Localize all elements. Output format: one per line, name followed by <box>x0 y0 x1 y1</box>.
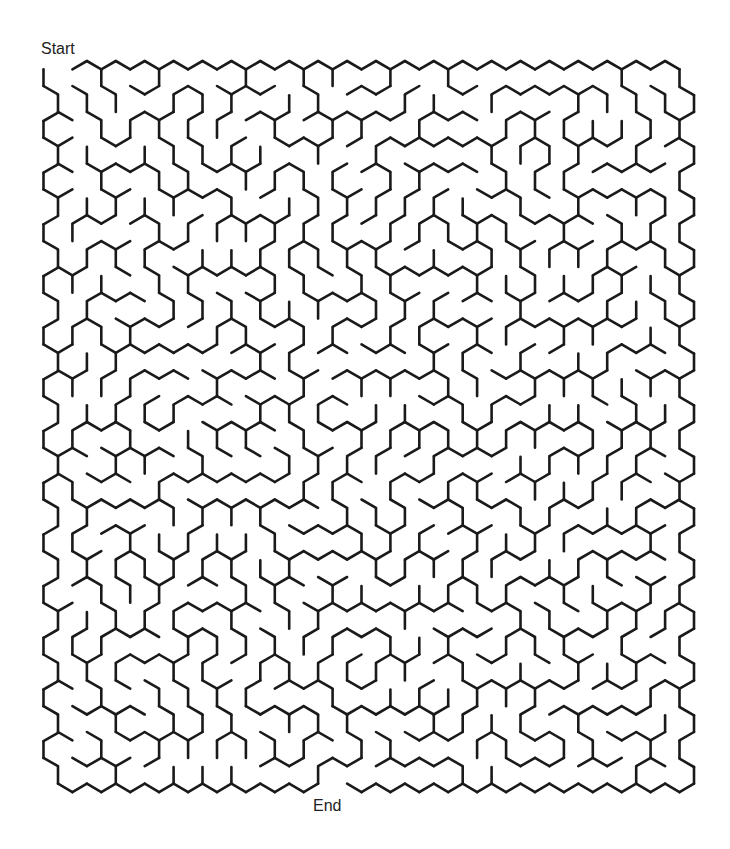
maze-wall <box>506 293 520 301</box>
maze-wall <box>72 551 87 559</box>
maze-wall <box>58 680 72 688</box>
maze-wall <box>275 577 289 585</box>
maze-wall <box>448 474 463 482</box>
maze-wall <box>145 577 159 585</box>
maze-wall <box>159 500 174 508</box>
maze-wall <box>405 474 419 482</box>
maze-wall <box>217 396 231 404</box>
maze-wall <box>578 319 593 327</box>
maze-wall <box>622 603 637 611</box>
maze-wall <box>622 655 637 663</box>
maze-wall <box>477 241 492 249</box>
maze-wall <box>304 241 318 249</box>
maze-wall <box>260 189 275 197</box>
maze-wall <box>521 344 536 352</box>
maze-wall <box>145 500 159 508</box>
maze-outer-wall <box>680 345 695 353</box>
maze-wall <box>304 525 318 533</box>
maze-wall <box>130 370 145 378</box>
maze-wall <box>390 215 405 223</box>
maze-wall <box>333 525 348 533</box>
maze-outer-wall <box>188 784 202 792</box>
maze-wall <box>434 319 448 327</box>
maze-wall <box>463 215 477 223</box>
maze-wall <box>419 164 434 172</box>
maze-outer-wall <box>275 784 289 792</box>
maze-wall <box>362 319 377 327</box>
maze-outer-wall <box>130 61 145 69</box>
maze-wall <box>101 603 116 611</box>
maze-wall <box>564 603 578 611</box>
maze-wall <box>535 138 549 146</box>
maze-outer-wall <box>44 268 59 276</box>
maze-wall <box>116 525 130 533</box>
maze-wall <box>116 189 130 197</box>
maze-wall <box>275 680 289 688</box>
maze-wall <box>506 112 520 120</box>
maze-wall <box>333 706 348 714</box>
maze-wall <box>145 344 159 352</box>
maze-wall <box>58 603 72 611</box>
maze-wall <box>145 629 159 637</box>
maze-wall <box>607 706 622 714</box>
maze-wall <box>318 577 333 585</box>
maze-wall <box>578 241 593 249</box>
maze-wall <box>405 267 419 275</box>
maze-wall <box>217 189 231 197</box>
maze-wall <box>159 241 174 249</box>
maze-outer-wall <box>101 784 116 792</box>
maze-wall <box>492 189 507 197</box>
maze-outer-wall <box>680 294 695 302</box>
maze-wall <box>289 758 304 766</box>
maze-wall <box>651 164 666 172</box>
maze-wall <box>347 189 361 197</box>
maze-wall <box>434 293 448 301</box>
maze-wall <box>506 603 520 611</box>
maze[interactable] <box>0 0 730 849</box>
maze-wall <box>434 396 448 404</box>
maze-wall <box>145 241 159 249</box>
maze-wall <box>203 164 218 172</box>
maze-wall <box>203 422 218 430</box>
maze-outer-wall <box>549 61 564 69</box>
maze-wall <box>651 344 666 352</box>
maze-outer-wall <box>564 784 578 792</box>
maze-wall <box>217 551 231 559</box>
maze-wall <box>174 370 189 378</box>
maze-wall <box>564 655 578 663</box>
maze-wall <box>145 267 159 275</box>
maze-outer-wall <box>289 784 304 792</box>
maze-wall <box>145 422 159 430</box>
maze-wall <box>549 680 564 688</box>
maze-wall <box>145 112 159 120</box>
maze-wall <box>492 396 507 404</box>
maze-wall <box>448 241 463 249</box>
maze-wall <box>549 758 564 766</box>
maze-wall <box>607 344 622 352</box>
maze-wall <box>376 551 390 559</box>
maze-wall <box>203 474 218 482</box>
maze-wall <box>159 138 174 146</box>
maze-outer-wall <box>477 61 492 69</box>
maze-wall <box>116 577 130 585</box>
maze-wall <box>362 706 377 714</box>
maze-wall <box>116 655 130 663</box>
maze-wall <box>318 603 333 611</box>
maze-wall <box>101 500 116 508</box>
maze-wall <box>578 629 593 637</box>
maze-wall <box>578 138 593 146</box>
maze-outer-wall <box>376 61 390 69</box>
maze-wall <box>434 344 448 352</box>
maze-outer-wall <box>680 629 695 637</box>
maze-wall <box>318 655 333 663</box>
maze-outer-wall <box>44 293 59 301</box>
maze-wall <box>651 215 666 223</box>
maze-wall <box>116 474 130 482</box>
maze-wall <box>463 577 477 585</box>
maze-wall <box>564 189 578 197</box>
maze-wall <box>593 680 607 688</box>
maze-wall <box>362 422 377 430</box>
maze-wall <box>145 319 159 327</box>
maze-wall <box>405 164 419 172</box>
maze-outer-wall <box>564 61 578 69</box>
